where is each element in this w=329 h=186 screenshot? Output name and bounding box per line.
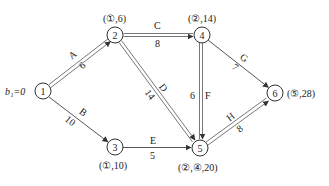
edge-E-weight: 5 — [150, 150, 155, 161]
edge-E: E 5 — [123, 135, 191, 161]
edge-H: H 8 — [206, 98, 269, 145]
edge-C: C 8 — [124, 20, 194, 49]
node-4-annotation: (②,14) — [188, 13, 216, 25]
node-4: 4 — [194, 27, 210, 43]
edge-D-weight: 14 — [143, 87, 158, 102]
node-5-label: 5 — [198, 143, 203, 154]
node-5-annotation: (②,④,20) — [178, 162, 218, 174]
node-6-annotation: (⑤,28) — [287, 88, 315, 100]
edge-A-weight: 6 — [77, 59, 88, 71]
edge-F-name: F — [205, 90, 211, 101]
edge-G: G 7 — [208, 40, 269, 88]
edge-A: A 6 — [49, 39, 111, 88]
edge-H-weight: 8 — [234, 123, 245, 135]
edge-C-weight: 8 — [155, 38, 160, 49]
node-3-annotation: (①,10) — [99, 160, 127, 172]
edge-F: 6 F — [190, 43, 211, 139]
node-4-label: 4 — [200, 30, 205, 41]
node-1-label: 1 — [41, 86, 46, 97]
edge-B-weight: 10 — [63, 113, 78, 128]
edge-B: B 10 — [49, 97, 108, 142]
node-5: 5 — [192, 140, 208, 156]
edge-C-name: C — [154, 20, 161, 31]
node-1: 1 — [35, 83, 51, 99]
node-2: 2 — [107, 27, 123, 43]
edge-D: D 14 — [119, 41, 195, 143]
node-2-label: 2 — [113, 30, 118, 41]
start-label: b₁=0 — [5, 86, 25, 97]
network-diagram: A 6 B 10 C 8 D 14 E 5 6 F G 7 — [0, 0, 329, 186]
edge-E-name: E — [150, 135, 156, 146]
edge-G-name: G — [238, 51, 250, 64]
edge-A-name: A — [66, 48, 79, 62]
edge-G-weight: 7 — [230, 61, 241, 73]
node-3-label: 3 — [113, 142, 118, 153]
edge-D-name: D — [157, 81, 170, 93]
node-3: 3 — [107, 139, 123, 155]
edge-B-name: B — [77, 106, 89, 119]
edge-F-weight: 6 — [190, 90, 195, 101]
node-6: 6 — [267, 85, 283, 101]
node-2-annotation: (①,6) — [103, 13, 126, 25]
node-6-label: 6 — [273, 88, 278, 99]
